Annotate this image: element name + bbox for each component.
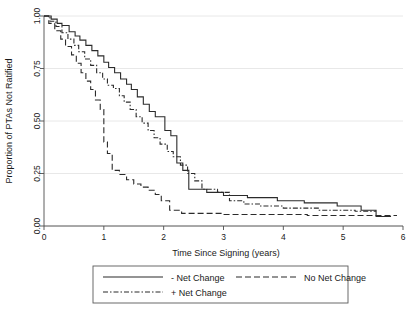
legend: - Net ChangeNo Net Change+ Net Change — [93, 266, 366, 303]
y-tick-label: 0.75 — [32, 60, 42, 77]
y-tick-label: 0.50 — [32, 112, 42, 129]
kaplan-meier-plot: 0.000.250.500.751.00 0123456 Time Since … — [0, 0, 412, 312]
x-tick-label: 3 — [221, 232, 226, 242]
y-axis-label: Proportion of PTAs Not Ratified — [4, 59, 14, 184]
series-line — [44, 16, 397, 216]
data-series-group — [44, 16, 397, 217]
x-tick-label: 0 — [42, 232, 47, 242]
x-axis-label: Time Since Signing (years) — [172, 248, 280, 258]
y-axis-ticks: 0.000.250.500.751.00 — [32, 7, 44, 234]
series-line — [44, 16, 391, 217]
legend-label: No Net Change — [304, 273, 366, 283]
x-axis: 0123456 — [42, 226, 406, 242]
survival-chart-figure: 0.000.250.500.751.00 0123456 Time Since … — [0, 0, 412, 312]
x-tick-label: 4 — [281, 232, 286, 242]
x-tick-label: 2 — [161, 232, 166, 242]
y-axis: 0.000.250.500.751.00 — [32, 7, 44, 234]
legend-label: + Net Change — [171, 288, 227, 298]
x-tick-label: 5 — [341, 232, 346, 242]
x-tick-label: 1 — [101, 232, 106, 242]
y-tick-label: 1.00 — [32, 7, 42, 24]
y-tick-label: 0.25 — [32, 165, 42, 182]
legend-label: - Net Change — [171, 273, 225, 283]
x-axis-ticks: 0123456 — [42, 226, 406, 242]
x-tick-label: 6 — [401, 232, 406, 242]
y-tick-label: 0.00 — [32, 217, 42, 234]
series-line — [44, 16, 376, 211]
